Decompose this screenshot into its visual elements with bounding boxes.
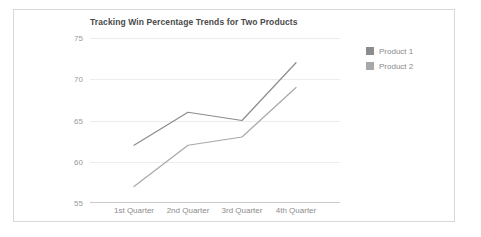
x-axis-tick-label: 1st Quarter: [114, 206, 154, 215]
y-axis-tick-label: 55: [74, 199, 83, 208]
series-line-product-2: [134, 88, 296, 187]
legend-swatch-icon: [366, 62, 374, 70]
chart-legend: Product 1Product 2: [366, 46, 413, 76]
legend-item-product-1[interactable]: Product 1: [366, 46, 413, 56]
chart-title: Tracking Win Percentage Trends for Two P…: [90, 17, 298, 27]
x-axis-tick-label: 3rd Quarter: [222, 206, 263, 215]
legend-label: Product 2: [379, 62, 413, 71]
legend-swatch-icon: [366, 47, 374, 55]
x-axis-tick-label: 4th Quarter: [276, 206, 316, 215]
series-lines: [90, 38, 340, 203]
y-axis-tick-label: 70: [74, 75, 83, 84]
y-axis-tick-label: 60: [74, 157, 83, 166]
series-line-product-1: [134, 63, 296, 146]
y-axis-tick-label: 75: [74, 34, 83, 43]
plot-area: 5560657075: [90, 38, 340, 203]
x-axis-tick-label: 2nd Quarter: [167, 206, 210, 215]
y-axis-tick-label: 65: [74, 116, 83, 125]
legend-item-product-2[interactable]: Product 2: [366, 61, 413, 71]
legend-label: Product 1: [379, 47, 413, 56]
chart-card: Tracking Win Percentage Trends for Two P…: [13, 9, 455, 222]
x-axis-tick-labels: 1st Quarter2nd Quarter3rd Quarter4th Qua…: [90, 206, 340, 222]
